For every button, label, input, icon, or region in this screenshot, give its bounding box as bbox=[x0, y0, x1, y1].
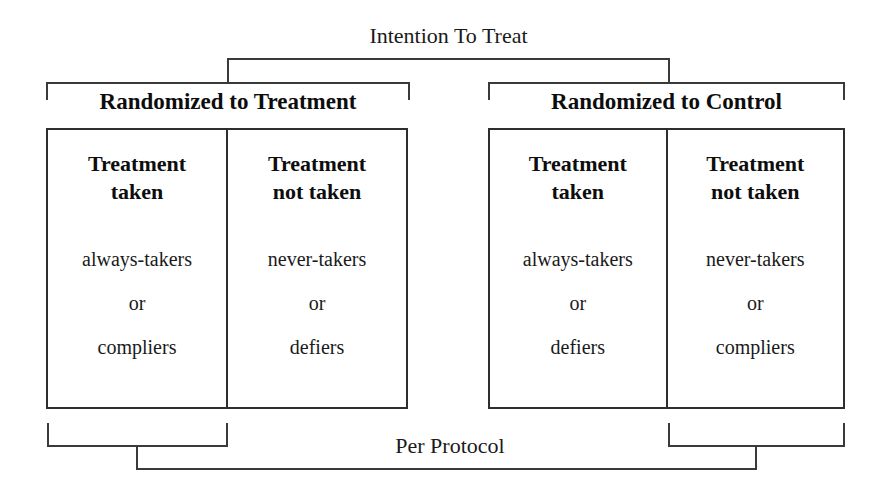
cell-title-line1: Treatment bbox=[529, 150, 627, 178]
treatment-arm-bracket-top-line bbox=[46, 82, 410, 84]
pp-left-bracket-left-leg bbox=[47, 423, 49, 447]
cell-title-line1: Treatment bbox=[88, 150, 186, 178]
treatment-arm-matrix: Treatment taken always-takers or complie… bbox=[46, 128, 408, 409]
pp-left-bracket-right-leg bbox=[226, 423, 228, 447]
pp-left-bracket-stem bbox=[136, 445, 138, 470]
cell-type-secondary: defiers bbox=[523, 337, 633, 357]
cell-type-secondary: compliers bbox=[82, 337, 192, 357]
cell-type-conjunction: or bbox=[82, 293, 192, 313]
cell-type-secondary: defiers bbox=[268, 337, 366, 357]
cell-type-primary: always-takers bbox=[82, 249, 192, 269]
itt-bracket-top-line bbox=[227, 58, 670, 60]
control-arm-bracket-top-line bbox=[488, 82, 845, 84]
cell-type-primary: always-takers bbox=[523, 249, 633, 269]
cell-type-secondary: compliers bbox=[706, 337, 804, 357]
cell-types: always-takers or compliers bbox=[82, 249, 192, 357]
pp-right-bracket-left-leg bbox=[668, 423, 670, 447]
cell-title-line2: taken bbox=[529, 178, 627, 206]
cell-title-line1: Treatment bbox=[706, 150, 804, 178]
cell-types: never-takers or defiers bbox=[268, 249, 366, 357]
pp-connector-line bbox=[136, 468, 757, 470]
control-arm-cell-not-taken: Treatment not taken never-takers or comp… bbox=[666, 130, 844, 407]
cell-title: Treatment not taken bbox=[706, 150, 804, 205]
cell-type-conjunction: or bbox=[706, 293, 804, 313]
itt-per-protocol-diagram: Intention To Treat Randomized to Treatme… bbox=[0, 0, 887, 493]
treatment-arm-cell-not-taken: Treatment not taken never-takers or defi… bbox=[226, 130, 406, 407]
itt-bracket-left-leg bbox=[227, 58, 229, 84]
cell-type-conjunction: or bbox=[268, 293, 366, 313]
cell-title: Treatment taken bbox=[88, 150, 186, 205]
pp-right-bracket-stem bbox=[755, 445, 757, 470]
cell-type-primary: never-takers bbox=[706, 249, 804, 269]
randomized-to-treatment-label: Randomized to Treatment bbox=[46, 90, 410, 113]
treatment-arm-cell-taken: Treatment taken always-takers or complie… bbox=[48, 130, 226, 407]
control-arm-matrix: Treatment taken always-takers or defiers… bbox=[488, 128, 845, 409]
randomized-to-control-label: Randomized to Control bbox=[488, 90, 845, 113]
itt-bracket-right-leg bbox=[668, 58, 670, 84]
cell-title-line2: taken bbox=[88, 178, 186, 206]
cell-title: Treatment taken bbox=[529, 150, 627, 205]
cell-types: always-takers or defiers bbox=[523, 249, 633, 357]
cell-type-primary: never-takers bbox=[268, 249, 366, 269]
pp-right-bracket-right-leg bbox=[843, 423, 845, 447]
intention-to-treat-label: Intention To Treat bbox=[227, 25, 670, 47]
cell-title-line1: Treatment bbox=[268, 150, 366, 178]
control-arm-cell-taken: Treatment taken always-takers or defiers bbox=[490, 130, 666, 407]
cell-types: never-takers or compliers bbox=[706, 249, 804, 357]
cell-type-conjunction: or bbox=[523, 293, 633, 313]
cell-title-line2: not taken bbox=[268, 178, 366, 206]
cell-title: Treatment not taken bbox=[268, 150, 366, 205]
per-protocol-label: Per Protocol bbox=[270, 435, 630, 457]
cell-title-line2: not taken bbox=[706, 178, 804, 206]
